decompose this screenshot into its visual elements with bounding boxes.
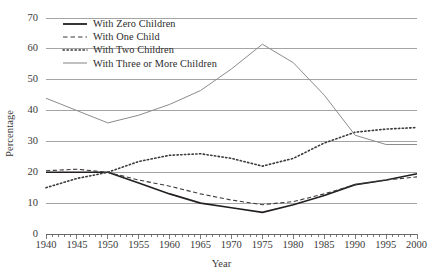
ytick-label-60: 60 [16,43,38,53]
x-axis-label: Year [0,258,443,269]
xtick-label-1975: 1975 [245,240,279,250]
series-line-with-two-children [46,128,417,188]
dashed-line-icon [62,31,88,43]
ytick-label-30: 30 [16,136,38,146]
xtick-label-1980: 1980 [276,240,310,250]
series-line-with-one-child [46,169,417,204]
legend-label-with-one-child: With One Child [93,31,160,42]
legend-item-with-one-child: With One Child [62,30,262,43]
legend-item-with-two-children: With Two Children [62,43,262,56]
legend-label-with-three-or-more-children: With Three or More Children [93,58,217,69]
ytick-label-10: 10 [16,198,38,208]
ytick-label-50: 50 [16,74,38,84]
xtick-label-1940: 1940 [29,240,63,250]
xtick-label-2000: 2000 [400,240,434,250]
ytick-label-40: 40 [16,105,38,115]
dotted-line-icon [62,44,88,56]
solid-thin-gray-line-icon [62,57,88,69]
xtick-label-1945: 1945 [60,240,94,250]
ytick-label-20: 20 [16,167,38,177]
xtick-label-1960: 1960 [153,240,187,250]
xtick-label-1990: 1990 [338,240,372,250]
chart-figure: 70 60 50 40 30 20 10 0 1940 1945 1950 19… [0,0,443,280]
series-line-with-zero-children [46,172,417,212]
solid-thick-dark-line-icon [62,18,88,30]
xtick-label-1965: 1965 [183,240,217,250]
xtick-label-1985: 1985 [307,240,341,250]
ytick-label-70: 70 [16,13,38,23]
xtick-label-1970: 1970 [214,240,248,250]
xtick-label-1950: 1950 [91,240,125,250]
y-axis-label: Percentage [4,104,15,164]
legend-item-with-zero-children: With Zero Children [62,17,262,30]
legend-label-with-zero-children: With Zero Children [93,18,176,29]
x-axis-minor-ticks [46,234,417,239]
xtick-label-1995: 1995 [369,240,403,250]
legend-item-with-three-or-more-children: With Three or More Children [62,57,262,70]
legend-label-with-two-children: With Two Children [93,44,174,55]
chart-legend: With Zero Children With One Child With T… [62,17,262,70]
ytick-label-0: 0 [16,229,38,239]
xtick-label-1955: 1955 [122,240,156,250]
